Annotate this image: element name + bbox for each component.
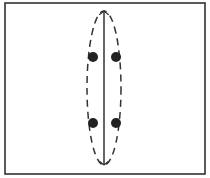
diagram-canvas [0, 0, 210, 178]
dot-2 [111, 52, 121, 62]
dot-4 [111, 118, 121, 128]
diagram-frame [5, 3, 205, 174]
dot-1 [88, 52, 98, 62]
dot-3 [88, 118, 98, 128]
